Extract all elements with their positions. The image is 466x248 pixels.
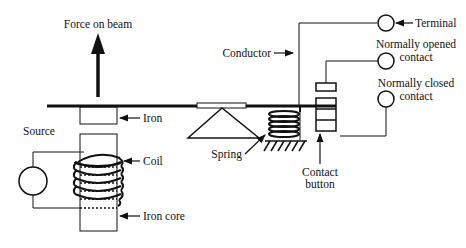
nc-contact-circle [378,91,394,107]
terminal-circle [378,15,394,31]
pivot-pad [197,103,246,108]
coil [74,155,123,208]
nc-contact-wire [340,107,386,136]
no-contact-circle [378,53,394,69]
ground-hatch [264,141,307,151]
coil-label: Coil [143,155,163,167]
fulcrum-triangle [188,108,259,138]
iron-core-label: Iron core [143,210,185,222]
iron-label: Iron [143,112,162,124]
relay-diagram: Force on beam Iron Source Coil Iron core [0,0,466,248]
nc-contact-label-line1: Normally closed [378,77,455,90]
spring [269,106,300,140]
contact-button [316,98,336,131]
source-wire-top [33,152,84,167]
iron-armature [80,107,117,124]
spring-label: Spring [211,148,242,161]
source-wire-bottom [33,195,80,208]
contact-button-label-line1: Contact [302,166,339,178]
conductor-label: Conductor [222,47,271,59]
conductor-wire [299,23,377,106]
no-contact-wire [326,61,378,83]
force-label: Force on beam [64,18,132,30]
nc-contact-label-line2: contact [399,90,433,102]
no-contact-label-line2: contact [399,51,433,63]
terminal-label: Terminal [415,17,456,29]
force-arrow [91,33,105,97]
source-label: Source [23,125,55,137]
source-circle [19,167,47,195]
no-contact-label-line1: Normally opened [376,38,456,51]
no-fixed-contact [316,83,336,91]
contact-button-label-line2: button [305,178,335,190]
